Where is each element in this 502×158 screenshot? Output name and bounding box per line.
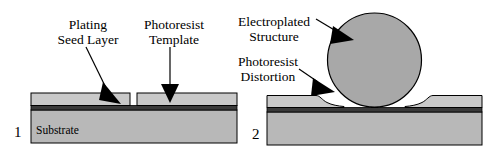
label-photoresist-distortion-line2: Distortion — [228, 69, 308, 84]
seed-layer-band-1 — [31, 106, 237, 111]
label-photoresist-distortion: Photoresist Distortion — [228, 54, 308, 84]
label-electroplated-structure-line2: Structure — [228, 29, 320, 44]
step-number-1: 1 — [14, 124, 22, 141]
label-plating-seed-layer-line2: Seed Layer — [40, 32, 136, 47]
step-number-2: 2 — [252, 126, 260, 143]
photoresist-right-1 — [137, 93, 237, 106]
figure-root: Plating Seed Layer Photoresist Template … — [0, 0, 502, 158]
label-photoresist-template-line1: Photoresist — [128, 17, 220, 32]
substrate-caption-1: Substrate — [36, 124, 79, 136]
label-photoresist-template-line2: Template — [128, 32, 220, 47]
seed-layer-band-2 — [267, 108, 482, 113]
label-electroplated-structure-line1: Electroplated — [228, 14, 320, 29]
photoresist-distorted-right-2 — [405, 96, 482, 108]
label-plating-seed-layer-line1: Plating — [40, 17, 136, 32]
electroplated-ball-2 — [328, 13, 422, 107]
label-plating-seed-layer: Plating Seed Layer — [40, 17, 136, 47]
photoresist-distorted-left-2 — [267, 96, 344, 108]
substrate-block-2 — [267, 112, 482, 145]
label-electroplated-structure: Electroplated Structure — [228, 14, 320, 44]
label-photoresist-distortion-line1: Photoresist — [228, 54, 308, 69]
label-photoresist-template: Photoresist Template — [128, 17, 220, 47]
